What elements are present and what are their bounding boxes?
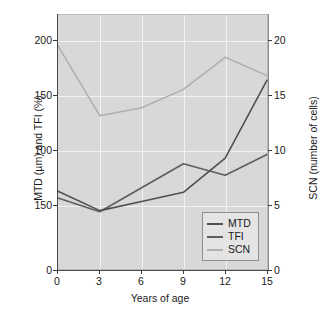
y-axis-right-title: SCN (number of cells) bbox=[307, 53, 319, 243]
x-tick bbox=[225, 270, 226, 274]
legend: MTD TFI SCN bbox=[202, 212, 259, 261]
y-tick-label-right: 20 bbox=[274, 35, 286, 46]
y-tick-left bbox=[53, 150, 57, 151]
legend-label-scn: SCN bbox=[228, 244, 250, 255]
legend-item-mtd: MTD bbox=[207, 217, 251, 230]
y-tick-label-right: 0 bbox=[274, 265, 280, 276]
y-tick-left bbox=[53, 95, 57, 96]
legend-label-tfi: TFI bbox=[228, 231, 244, 242]
series-line-tfi bbox=[58, 155, 267, 212]
legend-label-mtd: MTD bbox=[228, 218, 251, 229]
x-tick bbox=[57, 270, 58, 274]
x-tick-label: 0 bbox=[42, 276, 72, 287]
x-tick bbox=[183, 270, 184, 274]
x-tick-label: 3 bbox=[84, 276, 114, 287]
y-tick-label-right: 10 bbox=[274, 145, 286, 156]
y-tick-right bbox=[268, 205, 272, 206]
series-line-scn bbox=[58, 46, 267, 116]
legend-item-scn: SCN bbox=[207, 243, 251, 256]
x-axis-line bbox=[57, 270, 269, 271]
y-axis-left-title: MTD (µm) and TFI (%) bbox=[32, 53, 44, 243]
y-tick-label-right: 5 bbox=[274, 200, 280, 211]
legend-swatch-mtd bbox=[207, 223, 223, 225]
legend-swatch-scn bbox=[207, 249, 223, 251]
x-tick-label: 6 bbox=[126, 276, 156, 287]
legend-swatch-tfi bbox=[207, 236, 223, 238]
chart-figure: 200 150 100 150 0 20 15 10 5 0 0 3 6 9 1… bbox=[0, 0, 320, 315]
y-tick-label-left: 0 bbox=[46, 265, 52, 276]
y-tick-label-right: 15 bbox=[274, 90, 286, 101]
x-tick bbox=[267, 270, 268, 274]
x-tick bbox=[99, 270, 100, 274]
x-tick-label: 15 bbox=[252, 276, 282, 287]
y-tick-label-left: 200 bbox=[34, 35, 52, 46]
x-axis-title: Years of age bbox=[0, 292, 320, 304]
x-tick-label: 9 bbox=[168, 276, 198, 287]
y-tick-right bbox=[268, 150, 272, 151]
y-tick-left bbox=[53, 40, 57, 41]
y-tick-right bbox=[268, 270, 272, 271]
y-axis-right-line bbox=[268, 14, 269, 271]
x-tick bbox=[141, 270, 142, 274]
y-tick-right bbox=[268, 95, 272, 96]
legend-item-tfi: TFI bbox=[207, 230, 251, 243]
x-tick-label: 12 bbox=[210, 276, 240, 287]
y-axis-left-line bbox=[57, 14, 58, 271]
y-tick-left bbox=[53, 205, 57, 206]
y-tick-right bbox=[268, 40, 272, 41]
